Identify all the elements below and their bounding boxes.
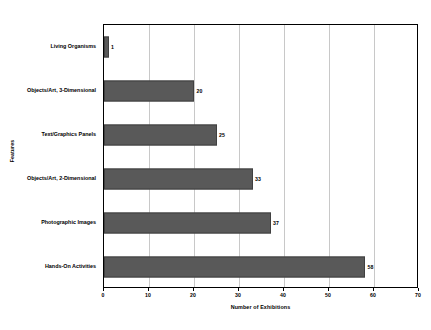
x-tick-mark	[283, 288, 284, 291]
category-label: Objects/Art, 3-Dimensional	[27, 87, 96, 93]
x-tick-mark	[328, 288, 329, 291]
x-tick-label: 70	[415, 292, 421, 298]
plot-area: 12025333758	[103, 24, 418, 288]
category-label: Photographic Images	[41, 219, 96, 225]
category-label: Text/Graphics Panels	[42, 131, 96, 137]
x-tick-mark	[238, 288, 239, 291]
bar-value-label: 20	[194, 88, 202, 94]
bar-row: 37	[104, 201, 417, 245]
x-tick-mark	[103, 288, 104, 291]
bar-row: 58	[104, 245, 417, 289]
bar	[104, 257, 365, 278]
category-label: Living Organisms	[50, 43, 96, 49]
x-tick-mark	[148, 288, 149, 291]
x-tick-label: 60	[370, 292, 376, 298]
x-tick-label: 40	[280, 292, 286, 298]
bar-value-label: 1	[109, 44, 114, 50]
x-tick-label: 10	[145, 292, 151, 298]
bar-value-label: 25	[217, 132, 225, 138]
bar-chart: Features Living OrganismsObjects/Art, 3-…	[0, 0, 431, 330]
bar	[104, 125, 217, 146]
bar-value-label: 58	[365, 264, 373, 270]
x-tick-mark	[193, 288, 194, 291]
bar-row: 25	[104, 113, 417, 157]
bar-value-label: 37	[271, 220, 279, 226]
category-label: Objects/Art, 2-Dimensional	[27, 175, 96, 181]
x-axis-title: Number of Exhibitions	[103, 304, 418, 310]
x-tick-label: 30	[235, 292, 241, 298]
x-tick-label: 20	[190, 292, 196, 298]
gridline	[419, 25, 420, 287]
bar-series: 12025333758	[104, 25, 417, 287]
x-tick-label: 0	[102, 292, 105, 298]
bar-row: 33	[104, 157, 417, 201]
bar-row: 20	[104, 69, 417, 113]
x-tick-mark	[418, 288, 419, 291]
bar-row: 1	[104, 25, 417, 69]
bar	[104, 169, 253, 190]
x-tick-mark	[373, 288, 374, 291]
bar	[104, 213, 271, 234]
bar	[104, 81, 194, 102]
x-axis-ticks: 010203040506070	[103, 288, 418, 300]
category-axis-labels: Living OrganismsObjects/Art, 3-Dimension…	[0, 24, 99, 288]
x-tick-label: 50	[325, 292, 331, 298]
category-label: Hands-On Activities	[45, 263, 96, 269]
bar-value-label: 33	[253, 176, 261, 182]
